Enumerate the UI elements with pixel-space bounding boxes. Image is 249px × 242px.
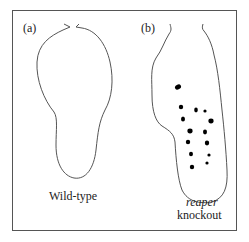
cell-dot xyxy=(186,140,190,144)
cell-dot xyxy=(194,108,198,113)
caption-wild-type: Wild-type xyxy=(49,190,97,203)
cell-dot xyxy=(205,141,209,146)
cell-dot xyxy=(187,129,192,134)
cell-dot xyxy=(207,153,210,156)
cell-dot xyxy=(174,83,182,90)
cell-dot xyxy=(190,165,194,169)
cell-dot xyxy=(181,116,185,121)
cell-dot xyxy=(208,119,213,124)
cell-dot xyxy=(179,105,183,109)
cell-dot xyxy=(205,161,208,164)
panel-label-a: (a) xyxy=(23,22,36,35)
caption-knockout: knockout xyxy=(177,209,222,222)
cell-dot xyxy=(203,109,206,112)
panel-label-b: (b) xyxy=(141,22,155,35)
cell-dot xyxy=(203,130,207,135)
cell-dot xyxy=(189,152,193,156)
wild-type-outline xyxy=(37,24,112,178)
knockout-dots xyxy=(174,83,214,169)
knockout-outline xyxy=(152,24,227,203)
